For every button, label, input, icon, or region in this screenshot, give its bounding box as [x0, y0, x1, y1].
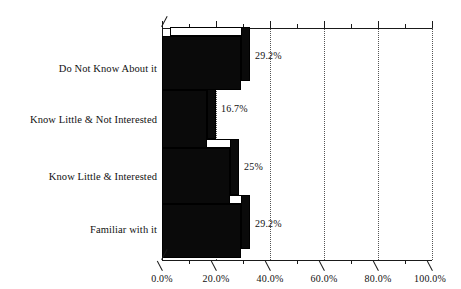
gridline-80 — [378, 28, 379, 260]
gridline-100 — [432, 28, 433, 260]
bar-value-label-0: 29.2% — [255, 50, 282, 61]
tick-bottom-0 — [157, 261, 163, 271]
tick-top-50 — [297, 24, 298, 28]
bar-front-face-2 — [162, 148, 230, 204]
y-axis-label-3: Familiar with it — [90, 224, 157, 235]
tick-bottom-30 — [243, 260, 244, 264]
tick-bottom-90 — [405, 260, 406, 264]
y-axis-label-2: Know Little & Interested — [49, 171, 157, 182]
tick-top-80 — [378, 21, 379, 28]
gridline-60 — [324, 28, 325, 260]
tick-bottom-60 — [319, 261, 325, 271]
x-tick-label-80: 80.0% — [365, 273, 392, 284]
x-tick-label-20: 20.0% — [203, 273, 230, 284]
plot-area: 0.0% 20.0% 40.0% 60.0% 80.0% 100.0% 29.2… — [162, 28, 432, 260]
tick-top-60 — [324, 21, 325, 28]
y-axis-label-1: Know Little & Not Interested — [30, 114, 157, 125]
bar-side-face-2 — [230, 139, 239, 195]
tick-bottom-50 — [297, 260, 298, 264]
tick-bottom-80 — [373, 261, 379, 271]
tick-top-100 — [432, 21, 433, 28]
bar-top-face-0 — [170, 27, 249, 36]
tick-bottom-70 — [351, 260, 352, 264]
tick-bottom-40 — [265, 261, 271, 271]
x-tick-label-100: 100.0% — [414, 273, 446, 284]
bar-front-face-1 — [162, 90, 207, 148]
x-tick-label-60: 60.0% — [311, 273, 338, 284]
y-axis-labels: Do Not Know About it Know Little & Not I… — [0, 0, 157, 289]
tick-bottom-10 — [189, 260, 190, 264]
bar-side-face-3 — [241, 195, 250, 249]
x-tick-label-40: 40.0% — [257, 273, 284, 284]
bar-side-face-0 — [241, 27, 250, 81]
bar-value-label-3: 29.2% — [255, 218, 282, 229]
bar-value-label-2: 25% — [244, 161, 263, 172]
tick-top-40 — [270, 21, 271, 28]
tick-bottom-20 — [211, 261, 217, 271]
bar-value-label-1: 16.7% — [221, 103, 248, 114]
bar-front-face-0 — [162, 36, 241, 90]
bar-front-face-3 — [162, 204, 241, 258]
tick-bottom-100 — [427, 261, 433, 271]
chart-figure: Do Not Know About it Know Little & Not I… — [0, 0, 461, 289]
x-tick-label-0: 0.0% — [151, 273, 173, 284]
y-axis-label-0: Do Not Know About it — [59, 63, 157, 74]
tick-top-70 — [351, 24, 352, 28]
tick-top-90 — [405, 24, 406, 28]
